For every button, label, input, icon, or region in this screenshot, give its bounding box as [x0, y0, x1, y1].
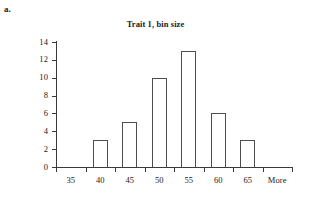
histogram-figure: a. Trait 1, bin size Frequency 024681012… [0, 0, 311, 201]
x-axis-tick [292, 168, 293, 172]
bar [240, 140, 255, 167]
y-axis-tick-label: 10 [26, 73, 48, 82]
x-axis-tick [115, 168, 116, 172]
y-axis-tick-label: 2 [26, 145, 48, 154]
y-axis-tick-label: 4 [26, 127, 48, 136]
bar [211, 113, 226, 167]
y-axis-tick-label: 14 [26, 38, 48, 47]
bar [122, 122, 137, 167]
bar [93, 140, 108, 167]
y-axis-tick-label: 6 [26, 109, 48, 118]
y-axis-tick-label: 0 [26, 163, 48, 172]
y-axis-tick-label: 8 [26, 91, 48, 100]
x-axis-tick [56, 168, 57, 172]
panel-label: a. [4, 4, 11, 14]
x-axis-tick [204, 168, 205, 172]
plot-area [56, 42, 292, 167]
x-axis-tick [145, 168, 146, 172]
bar [181, 51, 196, 167]
x-axis-tick [263, 168, 264, 172]
x-axis-tick [233, 168, 234, 172]
x-axis-tick [174, 168, 175, 172]
x-axis-tick-label: More [253, 175, 301, 185]
bar [152, 78, 167, 167]
chart-title: Trait 1, bin size [0, 19, 311, 29]
y-axis-tick-label: 12 [26, 55, 48, 64]
x-axis-tick [86, 168, 87, 172]
